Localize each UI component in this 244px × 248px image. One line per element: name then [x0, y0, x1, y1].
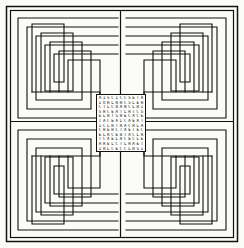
letter-row: IRLCECCLRSI [98, 147, 144, 152]
letter-cell: I [140, 147, 144, 152]
labyrinth-figure: AISCICCSETAIORLRRCSLERCTLCBANCLRISRCEATL… [0, 0, 244, 248]
center-letter-grid: AISCICCSETAIORLRRCSLERCTLCBANCLRISRCEATL… [96, 94, 146, 152]
